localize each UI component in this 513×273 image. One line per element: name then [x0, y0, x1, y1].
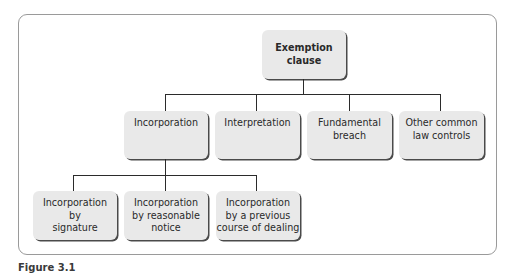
node-label: Interpretation: [224, 117, 290, 130]
connector-to-fundamental-breach: [349, 94, 350, 111]
connector-to-other-controls: [440, 94, 441, 111]
node-incorporation: Incorporation: [124, 111, 208, 159]
connector-to-incorporation: [165, 94, 166, 111]
node-fundamental-breach: Fundamental breach: [307, 111, 392, 159]
node-interpretation: Interpretation: [215, 111, 300, 159]
node-other-common-law-controls: Other common law controls: [399, 111, 484, 159]
node-incorporation-by-course-of-dealing: Incorporation by a previous course of de…: [216, 191, 300, 240]
connector-to-reasonable-notice: [165, 175, 166, 191]
connector-level2-bar: [165, 94, 441, 95]
node-label: Incorporation: [134, 117, 198, 130]
connector-to-interpretation: [256, 94, 257, 111]
node-label: Incorporation by a previous course of de…: [217, 197, 300, 235]
node-label: Other common law controls: [405, 117, 477, 142]
node-exemption-clause: Exemption clause: [262, 30, 346, 79]
figure-caption: Figure 3.1: [18, 262, 75, 273]
connector-root-down: [303, 79, 304, 94]
node-label: Fundamental breach: [318, 117, 381, 142]
node-label: Incorporation by reasonable notice: [132, 197, 200, 235]
connector-to-signature: [73, 175, 74, 191]
node-incorporation-by-reasonable-notice: Incorporation by reasonable notice: [124, 191, 208, 240]
connector-incorporation-down: [165, 159, 166, 175]
node-incorporation-by-signature: Incorporation by signature: [33, 191, 117, 240]
connector-to-course-of-dealing: [256, 175, 257, 191]
node-label: Incorporation by signature: [43, 197, 107, 235]
node-label: Exemption clause: [275, 42, 332, 67]
